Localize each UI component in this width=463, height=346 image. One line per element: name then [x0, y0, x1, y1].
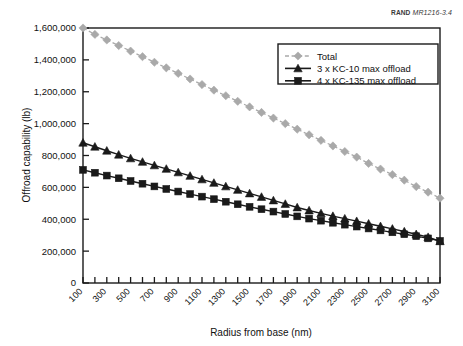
y-tick-label: 1,400,000 — [34, 54, 76, 65]
x-tick-label: 300 — [91, 286, 109, 304]
x-tick-label: 900 — [162, 286, 180, 304]
data-point-marker — [187, 191, 194, 198]
data-point-marker — [270, 208, 277, 215]
x-axis-title: Radius from base (nm) — [210, 327, 312, 338]
data-point-marker — [294, 213, 301, 220]
data-point-marker — [127, 178, 134, 185]
x-tick-label: 1500 — [230, 286, 251, 307]
x-tick-label: 500 — [114, 286, 132, 304]
y-tick-label: 0 — [71, 277, 76, 288]
offload-capability-line-chart: 0200,000400,000600,000800,0001,000,0001,… — [0, 0, 463, 346]
legend-label: 3 x KC-10 max offload — [317, 63, 411, 74]
rand-credit: RANDMR1216-3.4 — [391, 9, 452, 16]
data-point-marker — [413, 233, 420, 240]
x-tick-label: 3100 — [420, 286, 441, 307]
data-point-marker — [222, 198, 229, 205]
x-tick-label: 1900 — [277, 286, 298, 307]
x-tick-label: 2100 — [301, 286, 322, 307]
data-point-marker — [175, 188, 182, 195]
data-point-marker — [353, 223, 360, 230]
y-tick-label: 600,000 — [42, 182, 76, 193]
y-tick-label: 400,000 — [42, 214, 76, 225]
y-tick-label: 200,000 — [42, 246, 76, 257]
data-point-marker — [330, 219, 337, 226]
data-point-marker — [318, 217, 325, 224]
y-axis-title: Offroad capability (lb) — [21, 108, 32, 203]
x-tick-label: 2500 — [349, 286, 370, 307]
data-point-marker — [92, 169, 99, 176]
x-tick-label: 2300 — [325, 286, 346, 307]
x-tick-label: 1300 — [206, 286, 227, 307]
x-tick-label: 1700 — [254, 286, 275, 307]
data-point-marker — [139, 180, 146, 187]
data-point-marker — [377, 227, 384, 234]
data-point-marker — [437, 238, 444, 245]
x-tick-label: 700 — [138, 286, 156, 304]
y-tick-label: 1,200,000 — [34, 86, 76, 97]
data-point-marker — [295, 77, 302, 84]
data-point-marker — [341, 221, 348, 228]
x-tick-label: 2900 — [396, 286, 417, 307]
data-point-marker — [401, 231, 408, 238]
x-tick-label: 1100 — [183, 286, 204, 307]
data-point-marker — [199, 193, 206, 200]
chart-legend: Total3 x KC-10 max offload4 x KC-135 max… — [278, 44, 438, 86]
x-tick-label: 100 — [67, 286, 85, 304]
data-point-marker — [306, 215, 313, 222]
data-point-marker — [163, 186, 170, 193]
chart-figure: RANDMR1216-3.4 0200,000400,000600,000800… — [0, 0, 463, 346]
data-point-marker — [389, 229, 396, 236]
data-point-marker — [246, 203, 253, 210]
legend-label: Total — [317, 51, 337, 62]
data-point-marker — [258, 206, 265, 213]
rand-org-label: RAND — [391, 9, 410, 16]
data-point-marker — [211, 196, 218, 203]
y-axis-tick-labels: 0200,000400,000600,000800,0001,000,0001,… — [34, 22, 76, 288]
x-tick-label: 2700 — [373, 286, 394, 307]
data-point-marker — [103, 172, 110, 179]
legend-label: 4 x KC-135 max offload — [317, 75, 416, 86]
data-point-marker — [80, 166, 87, 173]
x-axis-tick-labels: 1003005007009001100130015001700190021002… — [67, 286, 442, 307]
y-tick-label: 800,000 — [42, 150, 76, 161]
data-point-marker — [151, 183, 158, 190]
data-point-marker — [234, 201, 241, 208]
y-tick-label: 1,000,000 — [34, 118, 76, 129]
data-point-marker — [425, 235, 432, 242]
data-point-marker — [365, 225, 372, 232]
data-point-marker — [282, 211, 289, 218]
data-point-marker — [115, 175, 122, 182]
y-tick-label: 1,600,000 — [34, 22, 76, 33]
rand-document-label: MR1216-3.4 — [410, 9, 452, 16]
